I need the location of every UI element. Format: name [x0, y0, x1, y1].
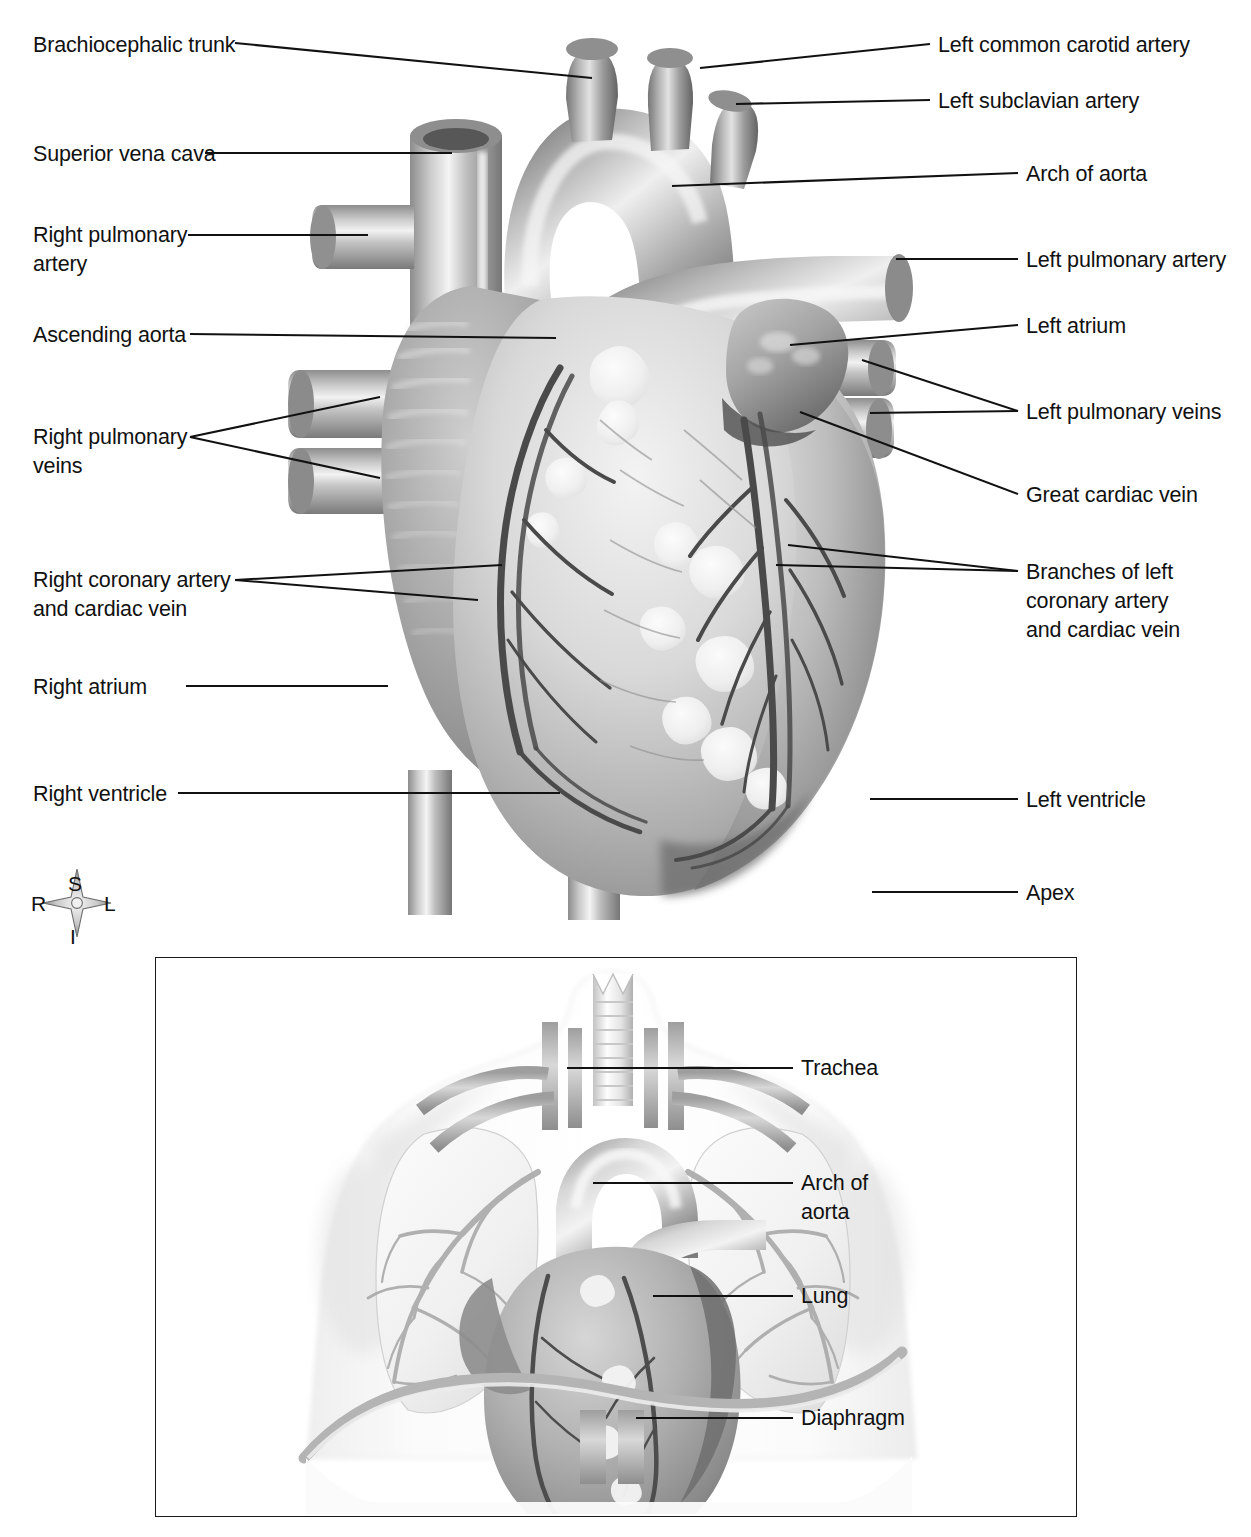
label-arch-of-aorta: Arch of aorta [1026, 160, 1147, 189]
label-branches-left-coronary: Branches of left coronary artery and car… [1026, 558, 1180, 645]
label-left-subclavian-artery: Left subclavian artery [938, 87, 1139, 116]
label-left-pulmonary-artery: Left pulmonary artery [1026, 246, 1226, 275]
compass-label-right: R [31, 892, 46, 916]
label-right-pulmonary-veins: Right pulmonary veins [33, 423, 187, 481]
leader-right-coronary-artery-b [235, 580, 478, 600]
leader-right-pulmonary-veins-upper [190, 397, 380, 437]
leader-lines-inset [156, 958, 1074, 1514]
leader-left-subclavian [736, 100, 930, 104]
label-left-common-carotid-artery: Left common carotid artery [938, 31, 1190, 60]
label-great-cardiac-vein: Great cardiac vein [1026, 481, 1198, 510]
compass-label-superior: S [68, 872, 82, 896]
leader-brachiocephalic-trunk [235, 43, 592, 78]
leader-right-pulmonary-veins-lower [190, 437, 380, 478]
label-brachiocephalic-trunk: Brachiocephalic trunk [33, 31, 235, 60]
compass-label-left: L [104, 892, 116, 916]
label-lung: Lung [801, 1282, 848, 1311]
figure-canvas: Brachiocephalic trunk Superior vena cava… [0, 0, 1251, 1537]
leader-ascending-aorta [190, 334, 556, 338]
leader-left-common-carotid [700, 44, 930, 68]
leader-left-atrium [790, 325, 1018, 345]
label-left-atrium: Left atrium [1026, 312, 1126, 341]
leader-left-pulmonary-veins-lower [870, 411, 1018, 413]
label-right-atrium: Right atrium [33, 673, 147, 702]
label-right-ventricle: Right ventricle [33, 780, 167, 809]
label-arch-of-aorta-inset: Arch of aorta [801, 1169, 868, 1227]
label-left-ventricle: Left ventricle [1026, 786, 1146, 815]
label-right-pulmonary-artery: Right pulmonary artery [33, 221, 187, 279]
label-diaphragm: Diaphragm [801, 1404, 905, 1433]
compass-label-inferior: I [70, 925, 76, 949]
thorax-inset-panel: Trachea Arch of aorta Lung Diaphragm [155, 957, 1077, 1517]
leader-left-pulmonary-veins-upper [862, 360, 1018, 411]
label-trachea: Trachea [801, 1054, 878, 1083]
leader-right-coronary-artery-a [235, 565, 502, 580]
label-superior-vena-cava: Superior vena cava [33, 140, 216, 169]
leader-arch-of-aorta [672, 173, 1018, 186]
leader-great-cardiac-vein [800, 412, 1018, 494]
label-apex: Apex [1026, 879, 1074, 908]
label-right-coronary-artery: Right coronary artery and cardiac vein [33, 566, 231, 624]
label-ascending-aorta: Ascending aorta [33, 321, 186, 350]
label-left-pulmonary-veins: Left pulmonary veins [1026, 398, 1221, 427]
